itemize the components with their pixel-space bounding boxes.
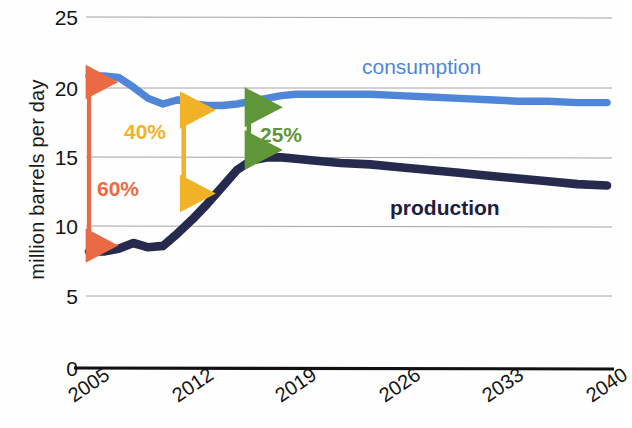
x-axis-line [74,368,614,369]
gridlines [86,17,612,296]
series-line-consumption [89,76,607,106]
series-line-production [89,157,607,251]
